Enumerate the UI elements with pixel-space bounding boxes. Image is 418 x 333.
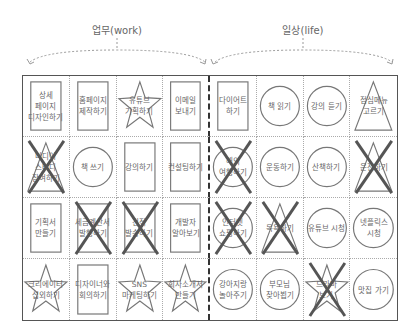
task-cell: 홈페이지 제작하기 — [70, 76, 117, 137]
task-cell: 산책하기 — [304, 137, 351, 198]
task-cell: 인터넷 쇼핑하기 — [210, 198, 257, 259]
task-label: 맛집 가기 — [350, 284, 397, 295]
task-label: 컨설팅하기 — [163, 162, 208, 173]
task-cell: 다이어트 하기 — [210, 76, 257, 137]
task-cell: 드라마 보기 — [304, 259, 351, 320]
task-label: 운동하기 — [257, 162, 303, 173]
task-cell: 회사소개서 만들기 — [163, 259, 210, 320]
task-cell: 운전하기 — [350, 137, 397, 198]
task-cell: 상세 페이지 디자인하기 — [23, 76, 70, 137]
task-cell: 개발자 알아보기 — [163, 198, 210, 259]
task-cell: 견적 발송하기 — [117, 198, 164, 259]
task-cell: 강아지랑 놀아주기 — [210, 259, 257, 320]
cross-out-icon — [304, 259, 350, 320]
task-label: 개발자 알아보기 — [163, 217, 208, 239]
task-label: 강의 듣기 — [304, 101, 350, 112]
cross-out-icon — [117, 198, 163, 258]
task-label: 유튜브 시청 — [304, 223, 350, 234]
task-label: 넷플릭스 시청 — [350, 217, 397, 239]
cross-out-icon — [257, 198, 303, 258]
cross-out-icon — [210, 137, 256, 197]
task-cell: 디자이너와 회의하기 — [70, 259, 117, 320]
task-label: 이메일 보내기 — [163, 95, 208, 117]
task-label: 강의하기 — [117, 162, 163, 173]
work-header: 업무(work) — [92, 22, 142, 37]
task-cell: 크리에이터 섭외하기 — [23, 259, 70, 320]
task-cell: 유튜브 시청 — [304, 198, 351, 259]
cross-out-icon — [23, 137, 69, 197]
task-label: 책 쓰기 — [70, 162, 116, 173]
task-label: SNS 마케팅하기 — [117, 279, 163, 301]
life-header: 일상(life) — [282, 22, 323, 37]
task-cell: 해외 여행하기 — [210, 137, 257, 198]
task-cell: 책 쓰기 — [70, 137, 117, 198]
task-label: 상세 페이지 디자인하기 — [23, 90, 69, 123]
task-cell: 미디어 스터디 참여하기 — [23, 137, 70, 198]
task-label: 산책하기 — [304, 162, 350, 173]
task-label: 디자이너와 회의하기 — [70, 279, 116, 301]
task-cell: 기획서 만들기 — [23, 198, 70, 259]
task-label: 책 읽기 — [257, 101, 303, 112]
task-label: 홈페이지 제작하기 — [70, 95, 116, 117]
task-cell: 책 읽기 — [257, 76, 304, 137]
task-label: 부모님 찾아뵙기 — [257, 279, 303, 301]
task-cell: 강의하기 — [117, 137, 164, 198]
task-label: 다이어트 하기 — [210, 95, 256, 117]
task-cell: 이메일 보내기 — [163, 76, 210, 137]
cross-out-icon — [210, 198, 256, 258]
task-label: 기획서 만들기 — [23, 217, 69, 239]
task-cell: SNS 마케팅하기 — [117, 259, 164, 320]
task-label: 크리에이터 섭외하기 — [23, 279, 69, 301]
task-cell: 컨설팅하기 — [163, 137, 210, 198]
task-label: 강아지랑 놀아주기 — [210, 279, 256, 301]
task-cell: 부모님 찾아뵙기 — [257, 259, 304, 320]
cross-out-icon — [70, 198, 116, 258]
task-cell: 세금계산서 발행하기 — [70, 198, 117, 259]
cross-out-icon — [350, 137, 397, 197]
task-label: 회사소개서 만들기 — [163, 279, 208, 301]
task-label: 점심메뉴 고르기 — [350, 95, 397, 117]
task-cell: 맛집 가기 — [350, 259, 397, 320]
task-cell: 운동하기 — [257, 137, 304, 198]
task-cell: 넷플릭스 시청 — [350, 198, 397, 259]
task-label: 유튜브 기획하기 — [117, 95, 163, 117]
task-cell: 강의 듣기 — [304, 76, 351, 137]
task-cell: 점심메뉴 고르기 — [350, 76, 397, 137]
task-cell: 유튜브 기획하기 — [117, 76, 164, 137]
task-grid: 상세 페이지 디자인하기홈페이지 제작하기유튜브 기획하기이메일 보내기다이어트… — [22, 75, 398, 321]
task-cell: 목욕하기 — [257, 198, 304, 259]
